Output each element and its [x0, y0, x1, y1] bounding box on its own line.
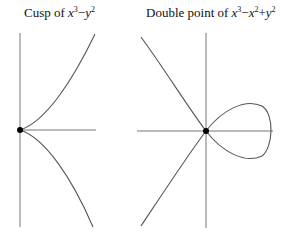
cusp-upper-branch [20, 34, 95, 130]
double-point-plot [137, 33, 273, 228]
cusp-lower-branch [20, 130, 93, 227]
double-point [203, 128, 209, 134]
cusp-plot [17, 33, 96, 227]
curves-diagram [0, 0, 283, 245]
cusp-point [17, 127, 23, 133]
